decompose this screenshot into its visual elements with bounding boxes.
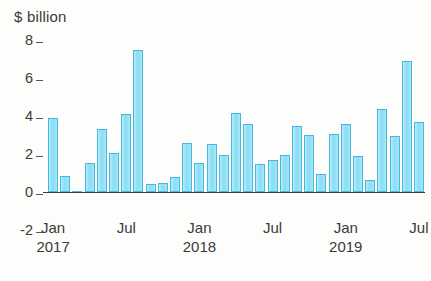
bar [158,183,168,192]
plot-area: 86420-2 [47,40,425,210]
y-tick-dash-icon [36,156,43,157]
bar [329,134,339,192]
bar [48,118,58,192]
bar [268,160,278,192]
y-tick-dash-icon [36,194,43,195]
x-tick-month: Jan [183,218,216,237]
y-tick-label: 8 [25,32,47,48]
bar [231,113,241,192]
bar [182,143,192,192]
bar [255,164,265,193]
x-tick-label: Jan2017 [36,218,69,256]
bar [207,144,217,192]
y-tick-text: -2 [20,222,33,238]
bar [97,129,107,192]
bar [390,136,400,192]
bar [85,163,95,192]
x-tick-year: 2018 [183,237,216,256]
x-tick-label: Jul [117,218,136,237]
x-tick-month: Jul [263,218,282,237]
y-tick-dash-icon [36,42,43,43]
x-tick-month: Jan [329,218,362,237]
y-tick-text: 2 [25,146,33,162]
bar [146,184,156,192]
bar [377,109,387,192]
y-tick-label: 6 [25,70,47,86]
y-axis-title: $ billion [14,8,67,25]
bar [280,155,290,192]
y-tick-text: 8 [25,32,33,48]
y-tick-label: 2 [25,146,47,162]
bar [170,177,180,192]
bar [219,155,229,192]
bar [353,156,363,192]
bar [60,176,70,192]
bar [341,124,351,192]
bar [414,122,424,192]
y-tick-dash-icon [36,118,43,119]
bar [194,163,204,192]
x-axis-ticks: Jan2017JulJan2018JulJan2019Jul [47,218,425,278]
chart-figure: $ billion 86420-2 Jan2017JulJan2018JulJa… [0,0,431,281]
zero-baseline [43,192,425,193]
x-tick-year: 2019 [329,237,362,256]
bar [292,126,302,193]
x-tick-label: Jan2019 [329,218,362,256]
x-tick-month: Jan [36,218,69,237]
bar [121,114,131,192]
x-tick-label: Jan2018 [183,218,216,256]
bar [133,50,143,192]
y-tick-dash-icon [36,80,43,81]
bar [304,135,314,192]
x-tick-label: Jul [409,218,428,237]
x-tick-month: Jul [117,218,136,237]
y-tick-text: 4 [25,108,33,124]
x-tick-year: 2017 [36,237,69,256]
x-tick-month: Jul [409,218,428,237]
bar [243,124,253,192]
bar [316,174,326,192]
y-tick-text: 6 [25,70,33,86]
x-tick-label: Jul [263,218,282,237]
bar [72,191,82,192]
y-tick-text: 0 [25,184,33,200]
y-tick-label: 4 [25,108,47,124]
bar [109,153,119,192]
bar-series [47,40,425,192]
bar [365,180,375,192]
bar [402,61,412,192]
